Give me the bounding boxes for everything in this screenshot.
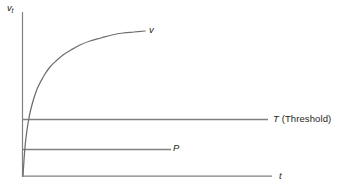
priming-label: P <box>173 142 179 153</box>
curve-label-symbol: v <box>149 24 154 35</box>
growth-curve-path <box>23 31 145 176</box>
priming-label-symbol: P <box>173 142 179 153</box>
threshold-label-text: (Threshold) <box>279 113 331 124</box>
y-axis-label-subscript: t <box>12 7 14 14</box>
curve-label: v <box>149 24 154 35</box>
x-axis-label-symbol: t <box>279 170 282 181</box>
threshold-label: T (Threshold) <box>273 113 331 124</box>
x-axis-label: t <box>279 170 282 181</box>
growth-curve-figure: vt t v T (Threshold) P <box>0 0 346 195</box>
plot-area <box>0 0 346 195</box>
y-axis-label: vt <box>7 2 14 14</box>
